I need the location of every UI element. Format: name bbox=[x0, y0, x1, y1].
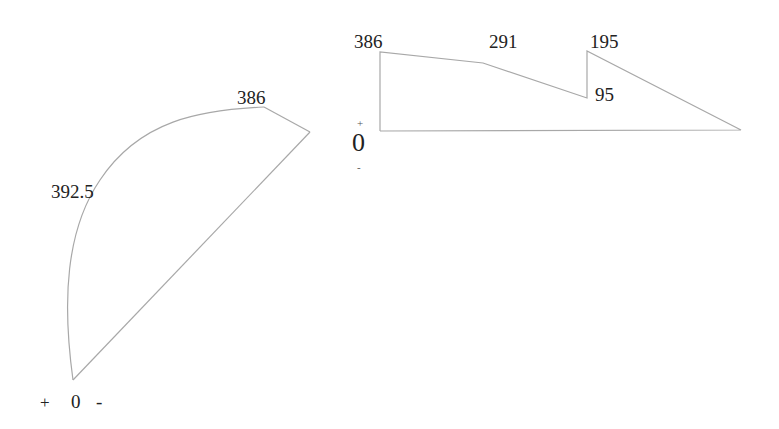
left-axis-minus: - bbox=[96, 392, 102, 411]
right-moment-diagram bbox=[380, 51, 741, 131]
left-diagram-curve bbox=[68, 107, 264, 380]
left-axis-plus: + bbox=[40, 394, 50, 411]
right-diagram-outline bbox=[380, 51, 741, 131]
right-axis-minus: - bbox=[357, 162, 361, 173]
right-jump-top-value: 195 bbox=[590, 32, 619, 51]
left-peak-value: 386 bbox=[237, 88, 266, 107]
right-axis-zero: 0 bbox=[352, 130, 365, 156]
right-start-value: 386 bbox=[354, 32, 383, 51]
right-kink-value: 291 bbox=[489, 32, 518, 51]
left-axis-zero: 0 bbox=[71, 392, 81, 411]
left-moment-diagram bbox=[68, 107, 310, 380]
left-diagram-top-segment bbox=[264, 107, 310, 132]
left-mid-value: 392.5 bbox=[51, 182, 94, 201]
right-jump-bottom-value: 95 bbox=[595, 85, 614, 104]
diagram-canvas bbox=[0, 0, 779, 429]
